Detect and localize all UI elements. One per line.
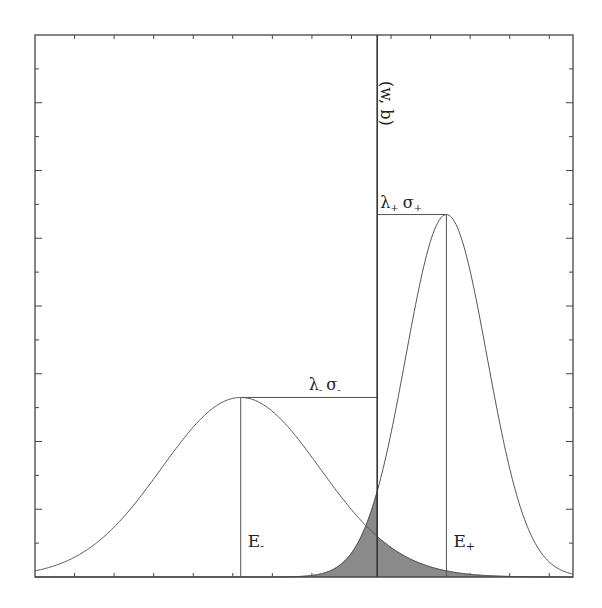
axis-ticks <box>35 35 573 577</box>
left-spread-label: λ-σ- <box>309 375 341 395</box>
mean-symbol: E <box>248 531 260 551</box>
mean-subscript: - <box>260 540 264 553</box>
plot-frame <box>35 35 573 577</box>
separator-label: (w, b) <box>377 81 396 126</box>
lambda-subscript: + <box>390 202 398 213</box>
right-gaussian-curve <box>35 215 573 577</box>
left-gaussian-curve <box>35 397 573 577</box>
lambda-subscript: - <box>319 384 322 395</box>
lambda-symbol: λ <box>380 193 390 212</box>
misclassification-shaded-area <box>35 491 573 577</box>
left-mean-label: E- <box>248 531 264 553</box>
sigma-symbol: σ <box>403 193 414 212</box>
sigma-symbol: σ <box>326 375 337 394</box>
right-spread-label: λ+σ+ <box>380 193 422 213</box>
gaussian-diagram: (w, b) λ-σ- λ+σ+ E- E+ <box>0 0 602 608</box>
mean-subscript: + <box>466 540 475 553</box>
lambda-symbol: λ <box>309 375 319 394</box>
sigma-subscript: + <box>414 202 422 213</box>
mean-symbol: E <box>453 531 465 551</box>
sigma-subscript: - <box>337 384 340 395</box>
right-mean-label: E+ <box>453 531 475 553</box>
